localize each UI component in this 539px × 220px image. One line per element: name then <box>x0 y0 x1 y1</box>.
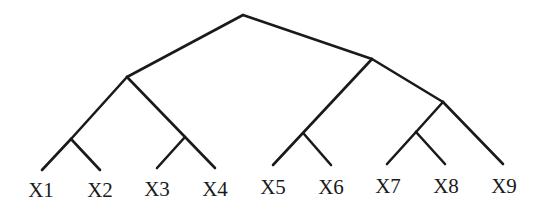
tree-edge <box>416 132 445 164</box>
leaf-label-x7: X7 <box>375 174 401 198</box>
tree-edges <box>42 15 503 170</box>
tree-edge <box>443 102 503 164</box>
tree-edge <box>243 15 372 59</box>
leaf-label-x2: X2 <box>87 178 113 202</box>
tree-edge <box>416 102 443 132</box>
tree-edge <box>372 59 443 102</box>
leaf-label-x6: X6 <box>318 175 344 199</box>
tree-edge <box>71 77 127 139</box>
leaf-label-x4: X4 <box>202 177 228 201</box>
tree-diagram: X1X2X3X4X5X6X7X8X9 <box>0 0 539 220</box>
leaf-label-x8: X8 <box>433 174 459 198</box>
leaf-label-x9: X9 <box>491 174 517 198</box>
tree-edge <box>273 59 372 165</box>
tree-edge <box>157 137 185 168</box>
leaf-label-x1: X1 <box>28 178 54 202</box>
leaf-label-x5: X5 <box>260 175 286 199</box>
tree-edge <box>42 139 71 170</box>
tree-edge <box>304 134 331 165</box>
tree-edge <box>387 132 416 164</box>
leaf-label-x3: X3 <box>144 177 170 201</box>
leaf-labels: X1X2X3X4X5X6X7X8X9 <box>28 174 517 202</box>
tree-edge <box>127 15 243 77</box>
tree-edge <box>71 139 100 170</box>
